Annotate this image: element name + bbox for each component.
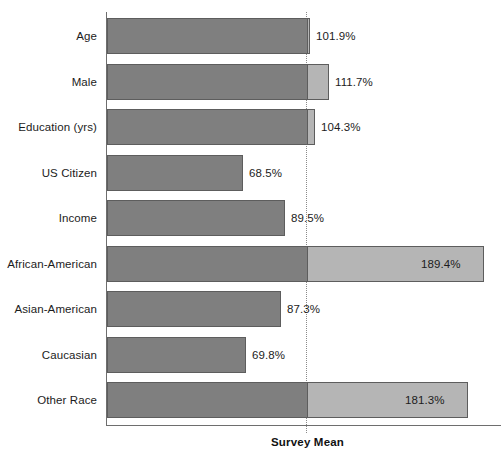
bar-mean-split-line [307,65,308,99]
bar[interactable] [107,337,246,373]
bar-segment-below-mean [108,292,281,326]
bar-value-label: 69.8% [252,349,285,361]
bar-segment-below-mean [108,383,307,417]
category-label: Male [72,76,97,88]
bar-wrapper [107,18,310,54]
bar-segment-below-mean [108,65,307,99]
bar-mean-split-line [307,19,308,53]
bar-row: Asian-American87.3% [0,291,501,327]
bar-row: Other Race181.3% [0,382,501,418]
category-label: Age [76,30,97,42]
bar-row: Male111.7% [0,64,501,100]
bar-segment-below-mean [108,19,307,53]
bar-value-label: 87.3% [287,303,320,315]
bar-value-label: 104.3% [321,121,361,133]
bar[interactable] [107,155,243,191]
bar[interactable] [107,64,329,100]
bar-segment-below-mean [108,247,307,281]
bar-value-label: 189.4% [421,258,461,270]
bar-wrapper [107,155,243,191]
bar-value-label: 101.9% [316,30,356,42]
category-label: Education (yrs) [18,121,97,133]
bar-wrapper [107,109,315,145]
bar-row: Education (yrs)104.3% [0,109,501,145]
bar-segment-below-mean [108,110,307,144]
bar-row: US Citizen68.5% [0,155,501,191]
bar-segment-below-mean [108,201,285,235]
bar-wrapper [107,337,246,373]
survey-mean-caption-text: Survey Mean [271,436,344,448]
category-label: African-American [7,258,97,270]
bar-segment-below-mean [108,338,246,372]
bar-value-label: 89.5% [291,212,324,224]
bar-chart: Age101.9%Male111.7%Education (yrs)104.3%… [0,0,501,464]
bar-mean-split-line [307,110,308,144]
bar-row: African-American189.4% [0,246,501,282]
bar-mean-split-line [307,383,308,417]
bar-value-label: 68.5% [249,167,282,179]
bar-value-label: 181.3% [405,394,445,406]
category-label: Income [59,212,97,224]
bar[interactable] [107,18,310,54]
x-axis-line [106,425,501,426]
bar-wrapper [107,200,285,236]
survey-mean-caption: Survey Mean [0,436,501,448]
bar-wrapper [107,291,281,327]
bar-value-label: 111.7% [335,76,373,88]
bar-mean-split-line [307,247,308,281]
bar[interactable] [107,291,281,327]
bar[interactable] [107,200,285,236]
bar-row: Caucasian69.8% [0,337,501,373]
bar-segment-below-mean [108,156,243,190]
bar-row: Age101.9% [0,18,501,54]
category-label: US Citizen [42,167,97,179]
bar-wrapper [107,64,329,100]
category-label: Caucasian [42,349,97,361]
bar[interactable] [107,109,315,145]
category-label: Asian-American [14,303,97,315]
bar-row: Income89.5% [0,200,501,236]
category-label: Other Race [37,394,97,406]
